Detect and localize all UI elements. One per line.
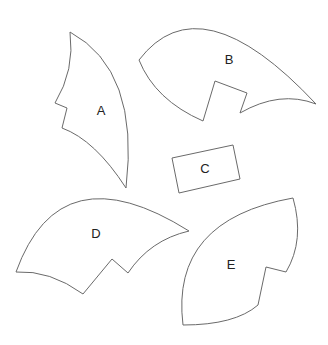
shape-a: [55, 32, 128, 188]
label-e: E: [227, 257, 236, 272]
shapes-canvas: [0, 0, 328, 345]
label-d: D: [91, 226, 100, 241]
shape-b: [139, 29, 316, 121]
label-a: A: [97, 103, 106, 118]
shape-d: [16, 199, 189, 294]
label-b: B: [225, 52, 234, 67]
label-c: C: [200, 161, 209, 176]
puzzle-diagram: A B C D E: [0, 0, 328, 345]
shape-e: [182, 198, 298, 325]
